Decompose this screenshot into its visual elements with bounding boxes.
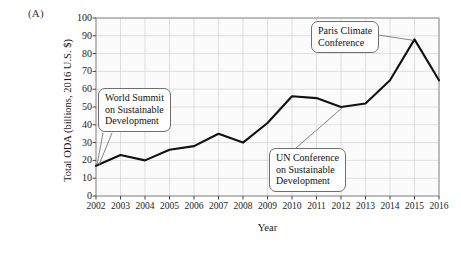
annotation-line: Development	[276, 175, 339, 187]
y-tick-label: 10	[70, 173, 92, 183]
y-tick-label: 20	[70, 155, 92, 165]
figure-panel-a: (A) Total ODA (billions, 2016 U.S. $) Ye…	[0, 0, 461, 254]
annotation-line: on Sustainable	[105, 104, 164, 116]
annotation-world-summit-sustainable-development: World Summit on Sustainable Development	[98, 88, 171, 132]
annotation-un-conference-sustainable-development: UN Conference on Sustainable Development	[269, 148, 346, 192]
y-tick-label: 90	[70, 31, 92, 41]
y-tick-label: 40	[70, 120, 92, 130]
annotation-line: Development	[105, 115, 164, 127]
x-tick-label: 2016	[422, 201, 456, 211]
annotation-line: World Summit	[105, 92, 164, 104]
y-tick-label: 80	[70, 49, 92, 59]
x-axis-title: Year	[95, 222, 440, 233]
y-axis-tick-labels: 0102030405060708090100	[68, 18, 92, 196]
panel-label: (A)	[28, 7, 44, 19]
y-tick-label: 0	[70, 191, 92, 201]
x-axis-tick-labels: 2002200320042005200620072008200920102011…	[96, 201, 439, 215]
annotation-line: on Sustainable	[276, 164, 339, 176]
y-tick-label: 70	[70, 66, 92, 76]
annotation-line: Paris Climate	[318, 25, 372, 37]
y-tick-label: 100	[70, 13, 92, 23]
annotation-paris-climate-conference: Paris Climate Conference	[311, 21, 379, 53]
annotation-line: UN Conference	[276, 152, 339, 164]
y-tick-label: 30	[70, 138, 92, 148]
y-tick-label: 50	[70, 102, 92, 112]
y-tick-label: 60	[70, 84, 92, 94]
annotation-line: Conference	[318, 37, 372, 49]
